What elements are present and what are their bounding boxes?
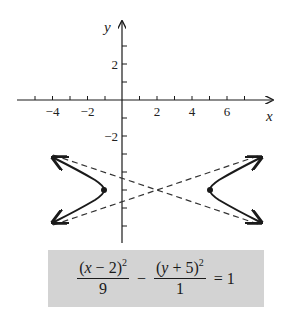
x-tick-label: −4 [46,104,60,119]
numerator: (x − 2)2 [77,259,129,279]
hyperbola-curve [54,158,260,222]
fraction-y-term: (y + 5)2 1 [154,259,206,298]
denominator: 1 [176,279,184,298]
numerator-rest: − 2) [92,259,122,276]
x-axis: −4 −2 2 4 6 x [17,96,273,124]
vertex-point-left [101,187,107,193]
vertex-point-right [207,187,213,193]
y-axis-label: y [102,19,111,35]
y-tick-label: −2 [104,129,118,144]
x-tick-label: 4 [189,104,196,119]
y-axis: 2 −2 y [102,19,127,243]
fraction-x-term: (x − 2)2 9 [77,259,129,298]
minus-operator: − [137,270,146,288]
denominator: 9 [99,279,107,298]
numerator-rest: + 5) [168,259,198,276]
x-tick-label: 2 [154,104,161,119]
equation-box: (x − 2)2 9 − (y + 5)2 1 = 1 [48,250,264,307]
exponent: 2 [122,257,127,268]
x-tick-label: 6 [224,104,231,119]
variable-x: x [85,259,92,276]
y-tick-label: 2 [112,57,119,72]
asymptotes [53,155,261,225]
x-axis-label: x [265,108,273,124]
numerator: (y + 5)2 [154,259,206,279]
equals-rhs: = 1 [214,270,235,288]
hyperbola-graph: −4 −2 2 4 6 x 2 −2 y [0,0,287,250]
x-tick-label: −2 [81,104,95,119]
exponent: 2 [199,257,204,268]
